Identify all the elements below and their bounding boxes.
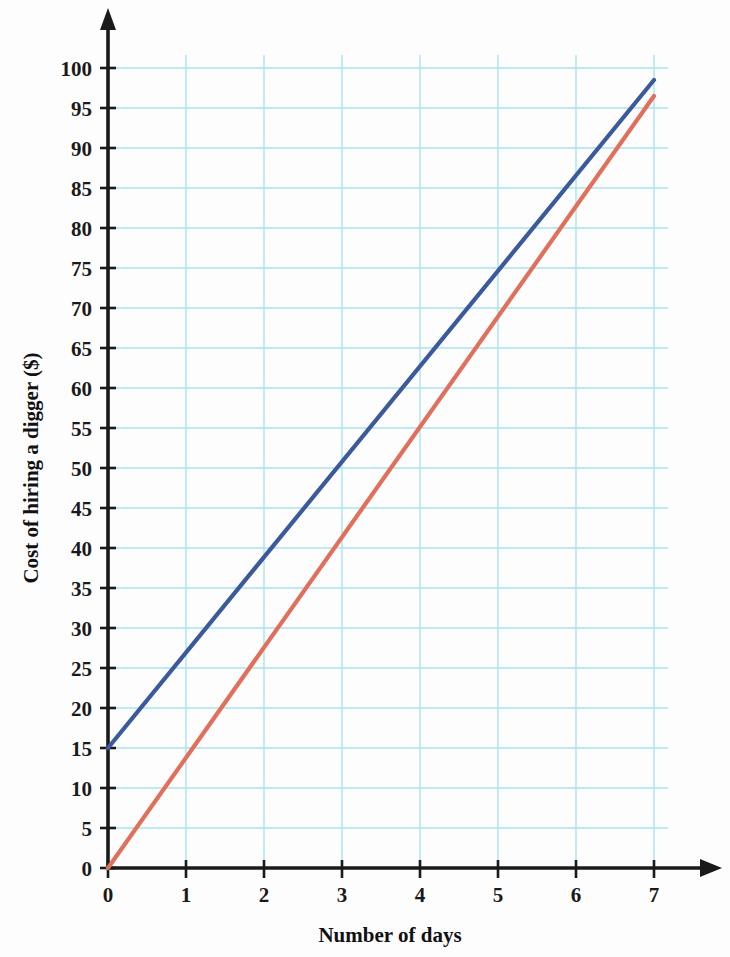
y-tick-label: 35 [71,577,92,601]
y-tick-label: 100 [61,57,93,81]
y-tick-label: 60 [71,377,92,401]
line-chart-figure: 0 5 10 15 20 25 30 35 40 45 50 55 60 65 … [0,0,730,957]
y-tick-label: 85 [71,177,92,201]
y-tick-label: 20 [71,697,92,721]
y-tick-label: 10 [71,777,92,801]
y-tick-label: 25 [71,657,92,681]
x-tick-label: 1 [181,883,192,907]
y-tick-label: 70 [71,297,92,321]
x-tick-label: 4 [415,883,426,907]
y-tick-label: 80 [71,217,92,241]
x-tick-label: 5 [493,883,504,907]
y-tick-label: 95 [71,97,92,121]
y-tick-label: 40 [71,537,92,561]
y-tick-label: 0 [82,857,93,881]
x-tick-label: 0 [103,883,114,907]
chart-svg: 0 5 10 15 20 25 30 35 40 45 50 55 60 65 … [0,0,730,957]
y-tick-label: 75 [71,257,92,281]
y-tick-label: 15 [71,737,92,761]
y-tick-label: 50 [71,457,92,481]
y-tick-label: 30 [71,617,92,641]
x-tick-label: 3 [337,883,348,907]
x-tick-label: 7 [649,883,660,907]
y-tick-label: 45 [71,497,92,521]
x-tick-label: 2 [259,883,270,907]
y-tick-label: 65 [71,337,92,361]
x-tick-label: 6 [571,883,582,907]
y-tick-label: 55 [71,417,92,441]
y-tick-label: 90 [71,137,92,161]
y-axis-title: Cost of hiring a digger ($) [19,352,43,583]
x-axis-title: Number of days [318,923,461,947]
y-tick-label: 5 [82,817,93,841]
